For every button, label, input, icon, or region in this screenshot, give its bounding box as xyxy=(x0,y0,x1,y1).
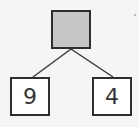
part-box-right[interactable]: 4 xyxy=(92,77,132,116)
part-value-left: 9 xyxy=(23,86,37,108)
part-box-left[interactable]: 9 xyxy=(10,77,50,116)
speck xyxy=(134,14,136,16)
connector-left xyxy=(33,49,71,77)
part-value-right: 4 xyxy=(105,86,119,108)
whole-box[interactable] xyxy=(51,10,91,49)
connector-right xyxy=(71,49,113,77)
